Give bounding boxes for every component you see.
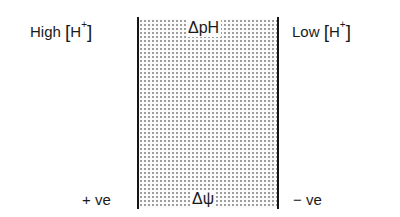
membrane-stippled-region <box>139 19 277 208</box>
negative-charge-label: − ve <box>293 191 322 209</box>
open-bracket: [ <box>324 21 329 42</box>
close-bracket: ] <box>346 21 351 42</box>
low-proton-concentration-label: Low [H+] <box>292 22 351 41</box>
proton-symbol: H <box>70 23 81 40</box>
proton-symbol: H <box>329 23 340 40</box>
delta-ph-label: ΔpH <box>186 19 221 37</box>
delta-psi-label: Δψ <box>190 190 216 208</box>
high-proton-concentration-label: High [H+] <box>30 22 92 41</box>
open-bracket: [ <box>65 21 70 42</box>
positive-charge-label: + ve <box>82 191 111 209</box>
membrane-left-boundary <box>137 17 139 209</box>
charge-superscript: + <box>340 19 346 30</box>
close-bracket: ] <box>87 21 92 42</box>
membrane-right-boundary <box>277 17 279 209</box>
low-text: Low <box>292 23 320 40</box>
high-text: High <box>30 23 61 40</box>
